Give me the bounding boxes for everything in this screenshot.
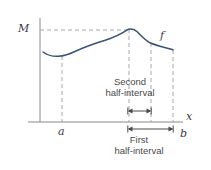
first-half-interval-caption: First half-interval xyxy=(99,135,179,156)
second-half-interval-arrow xyxy=(128,108,152,115)
y-max-label: M xyxy=(18,23,29,35)
figure-container: M f a b x Second half-interval First hal… xyxy=(0,0,211,170)
x-axis-label: x xyxy=(186,111,192,123)
left-endpoint-label: a xyxy=(58,126,65,138)
second-half-interval-caption-line2: half-interval xyxy=(90,88,170,99)
first-half-interval-arrow xyxy=(128,126,174,133)
function-curve xyxy=(43,29,173,56)
function-label: f xyxy=(160,30,164,42)
first-half-interval-caption-line2: half-interval xyxy=(99,146,179,157)
second-half-interval-caption: Second half-interval xyxy=(90,77,170,98)
right-endpoint-label: b xyxy=(180,128,187,140)
